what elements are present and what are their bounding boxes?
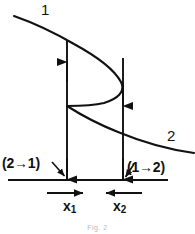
axis-label-x1-subscript: 1 xyxy=(71,204,77,215)
transition-label-1-to-2: (1→2) xyxy=(127,160,165,174)
branch-label-upper: 1 xyxy=(41,2,49,17)
axis-label-x2-base: x xyxy=(113,198,121,214)
axis-label-x2-subscript: 2 xyxy=(121,204,127,215)
axis-label-x1: x1 xyxy=(63,199,76,215)
figure-container: 1 2 (2→1) (1→2) x1 x2 Fig. 2 xyxy=(0,0,195,234)
figure-drawing xyxy=(0,0,195,234)
figure-caption: Fig. 2 xyxy=(0,224,195,231)
axis-label-x2: x2 xyxy=(113,199,126,215)
leader-line-trans-21 xyxy=(52,162,65,176)
axis-label-x1-base: x xyxy=(63,198,71,214)
transition-label-2-to-1: (2→1) xyxy=(2,156,40,170)
branch-label-lower: 2 xyxy=(167,128,175,143)
